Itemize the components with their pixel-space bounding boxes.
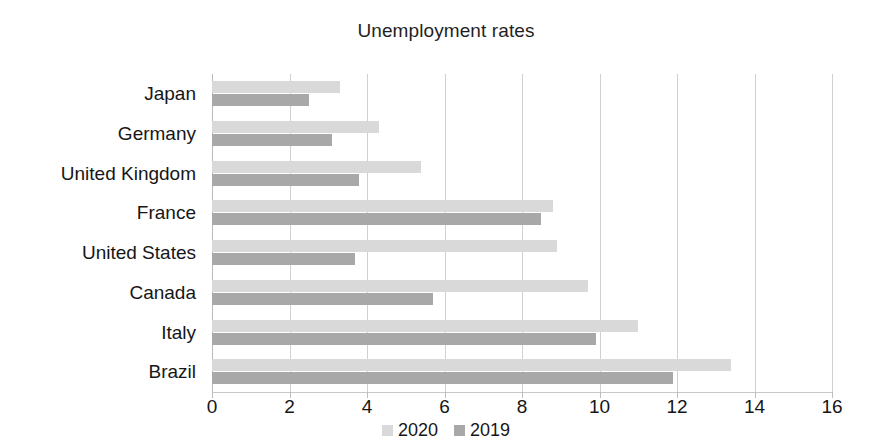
bar-group xyxy=(212,313,832,353)
bar-2019-italy xyxy=(212,333,596,345)
chart-title: Unemployment rates xyxy=(0,20,892,42)
bar-2019-canada xyxy=(212,293,433,305)
bar-2020-japan xyxy=(212,81,340,93)
legend-item-2020[interactable]: 2020 xyxy=(382,421,438,439)
y-axis-category-labels: JapanGermanyUnited KingdomFranceUnited S… xyxy=(0,74,204,392)
x-tick-label-10: 10 xyxy=(570,396,630,418)
y-axis-label-united-states: United States xyxy=(0,233,204,273)
bar-2019-brazil xyxy=(212,372,673,384)
y-axis-label-germany: Germany xyxy=(0,114,204,154)
y-axis-label-france: France xyxy=(0,193,204,233)
bar-2020-united-states xyxy=(212,240,557,252)
bar-2020-brazil xyxy=(212,359,731,371)
bar-2020-germany xyxy=(212,121,379,133)
bar-group xyxy=(212,273,832,313)
legend-label-2019: 2019 xyxy=(470,421,510,439)
unemployment-rates-chart: Unemployment rates JapanGermanyUnited Ki… xyxy=(0,0,892,446)
bar-2019-germany xyxy=(212,134,332,146)
x-tick-label-0: 0 xyxy=(182,396,242,418)
bar-2019-united-states xyxy=(212,253,355,265)
bar-group xyxy=(212,74,832,114)
gridline-16 xyxy=(832,74,833,392)
x-tick-label-16: 16 xyxy=(802,396,862,418)
bar-2020-canada xyxy=(212,280,588,292)
bar-2020-france xyxy=(212,200,553,212)
bar-2019-japan xyxy=(212,94,309,106)
plot-area xyxy=(212,74,832,392)
legend-swatch-2020 xyxy=(382,425,393,436)
x-tick-label-14: 14 xyxy=(725,396,785,418)
x-tick-label-12: 12 xyxy=(647,396,707,418)
y-axis-label-canada: Canada xyxy=(0,273,204,313)
legend-item-2019[interactable]: 2019 xyxy=(454,421,510,439)
y-axis-label-brazil: Brazil xyxy=(0,352,204,392)
bar-group xyxy=(212,233,832,273)
bar-2020-italy xyxy=(212,320,638,332)
bar-group xyxy=(212,193,832,233)
bar-2019-france xyxy=(212,213,541,225)
bar-group xyxy=(212,114,832,154)
bar-group xyxy=(212,154,832,194)
y-axis-label-japan: Japan xyxy=(0,74,204,114)
x-tick-label-4: 4 xyxy=(337,396,397,418)
bar-2019-united-kingdom xyxy=(212,174,359,186)
y-axis-label-united-kingdom: United Kingdom xyxy=(0,154,204,194)
legend: 20202019 xyxy=(0,421,892,439)
x-tick-label-8: 8 xyxy=(492,396,552,418)
legend-label-2020: 2020 xyxy=(398,421,438,439)
x-tick-label-6: 6 xyxy=(415,396,475,418)
x-tick-label-2: 2 xyxy=(260,396,320,418)
y-axis-label-italy: Italy xyxy=(0,313,204,353)
bar-2020-united-kingdom xyxy=(212,161,421,173)
bar-group xyxy=(212,352,832,392)
legend-swatch-2019 xyxy=(454,425,465,436)
